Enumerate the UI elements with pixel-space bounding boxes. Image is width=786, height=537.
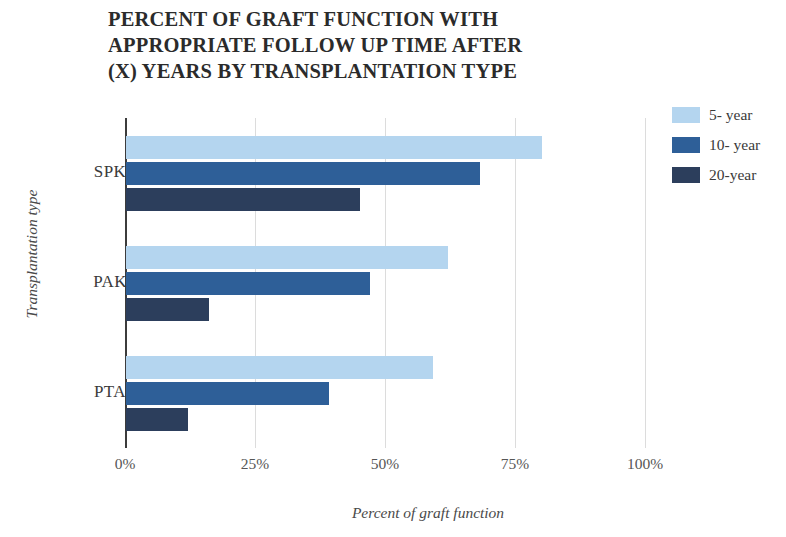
bar-group <box>126 338 646 448</box>
chart-title-line-1: PERCENT OF GRAFT FUNCTION WITH <box>108 6 668 32</box>
x-tick-25%: 25% <box>220 455 290 473</box>
bar[interactable] <box>126 272 370 295</box>
chart-title-line-2: APPROPRIATE FOLLOW UP TIME AFTER <box>108 32 668 58</box>
x-tick-0%: 0% <box>90 455 160 473</box>
chart-title: PERCENT OF GRAFT FUNCTION WITH APPROPRIA… <box>108 6 668 84</box>
x-tick-100%: 100% <box>610 455 680 473</box>
bar[interactable] <box>126 356 433 379</box>
category-label-spk: SPK <box>80 162 140 182</box>
x-axis-title: Percent of graft function <box>0 504 786 522</box>
legend-swatch-icon <box>672 107 700 123</box>
chart-title-line-3: (X) YEARS BY TRANSPLANTATION TYPE <box>108 58 668 84</box>
category-label-pta: PTA <box>80 382 140 402</box>
legend-label: 10- year <box>709 136 760 154</box>
bar[interactable] <box>126 298 209 321</box>
bar[interactable] <box>126 408 188 431</box>
legend-swatch-icon <box>672 167 700 183</box>
y-axis-title: Transplantation type <box>23 144 41 364</box>
x-tick-50%: 50% <box>350 455 420 473</box>
legend-item[interactable]: 10- year <box>672 134 784 156</box>
legend-label: 5- year <box>709 106 752 124</box>
bar[interactable] <box>126 188 360 211</box>
bar[interactable] <box>126 136 542 159</box>
bar-group <box>126 228 646 338</box>
legend: 5- year10- year20-year <box>672 104 784 194</box>
bar[interactable] <box>126 162 480 185</box>
plot-area <box>125 118 645 448</box>
legend-item[interactable]: 5- year <box>672 104 784 126</box>
category-label-pak: PAK <box>80 272 140 292</box>
x-tick-75%: 75% <box>480 455 550 473</box>
bar[interactable] <box>126 246 448 269</box>
chart-container: PERCENT OF GRAFT FUNCTION WITH APPROPRIA… <box>0 0 786 537</box>
legend-swatch-icon <box>672 137 700 153</box>
bar[interactable] <box>126 382 329 405</box>
legend-label: 20-year <box>709 166 756 184</box>
legend-item[interactable]: 20-year <box>672 164 784 186</box>
bar-group <box>126 118 646 228</box>
